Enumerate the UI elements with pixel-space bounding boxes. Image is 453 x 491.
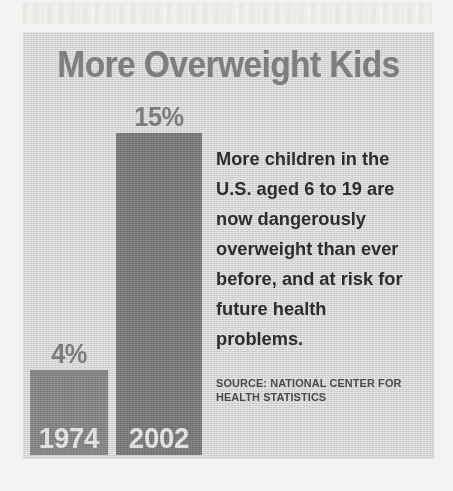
bar-year-label-2002: 2002 (119, 422, 198, 454)
caption-column: More children in the U.S. aged 6 to 19 a… (216, 144, 416, 404)
infographic-panel: More Overweight Kids 4% 1974 15% 2002 Mo… (23, 32, 434, 459)
bar-rect-2002: 2002 (116, 133, 202, 455)
bar-value-label-1974: 4% (32, 339, 105, 369)
page-bleedthrough-artifact (22, 2, 432, 24)
source-attribution: SOURCE: NATIONAL CENTER FOR HEALTH STATI… (216, 376, 406, 404)
caption-body-text: More children in the U.S. aged 6 to 19 a… (216, 144, 408, 354)
bar-value-label-2002: 15% (119, 102, 200, 132)
bar-rect-1974: 1974 (30, 370, 108, 455)
bar-year-label-1974: 1974 (33, 422, 105, 454)
